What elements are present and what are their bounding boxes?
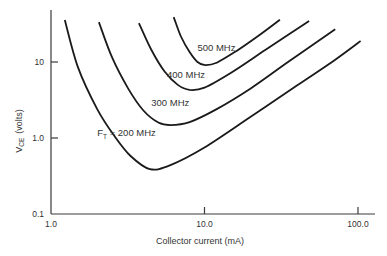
y-tick-label: 1.0 xyxy=(32,133,44,143)
x-tick-label: 1.0 xyxy=(45,219,57,229)
x-tick-label: 10.0 xyxy=(196,219,213,229)
chart-canvas: 0.11.010 1.010.0100.0 FT = 200 MHz300 MH… xyxy=(0,0,387,256)
curve-label: FT = 200 MHz xyxy=(97,127,156,140)
curve-label: 400 MHz xyxy=(167,69,205,80)
curves xyxy=(65,17,361,170)
y-axis-ticks: 0.11.010 xyxy=(32,57,58,219)
x-axis-label: Collector current (mA) xyxy=(156,236,244,246)
y-axis-label-sub: CE xyxy=(18,137,25,147)
curve-label: 300 MHz xyxy=(151,97,189,108)
curve-300-mhz xyxy=(99,22,335,125)
svg-text:VCE(volts): VCE(volts) xyxy=(14,109,25,153)
y-tick-label: 0.1 xyxy=(32,209,44,219)
curve-400-mhz xyxy=(139,21,309,90)
y-axis-label: VCE(volts) xyxy=(14,109,25,153)
y-tick-label: 10 xyxy=(35,57,45,67)
x-tick-label: 100.0 xyxy=(347,219,369,229)
curve-label: 500 MHz xyxy=(197,42,235,53)
x-axis-ticks: 1.010.0100.0 xyxy=(45,207,369,229)
y-axis-label-unit: (volts) xyxy=(14,109,24,134)
